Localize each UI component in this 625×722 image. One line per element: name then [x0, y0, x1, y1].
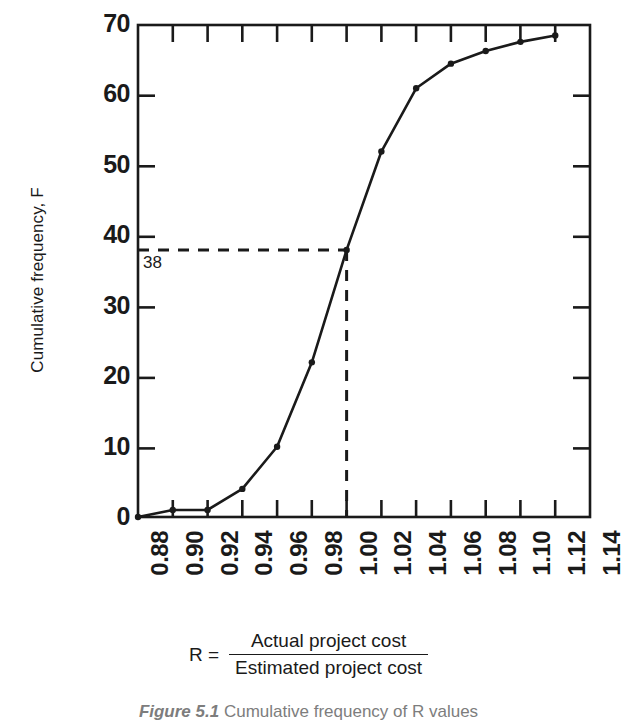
formula-denominator: Estimated project cost — [229, 654, 428, 679]
x-tick-label: 1.04 — [426, 531, 450, 621]
x-tick-label: 1.02 — [391, 531, 415, 621]
x-axis-formula: R = Actual project cost Estimated projec… — [0, 630, 617, 679]
x-tick-label: 1.12 — [565, 531, 589, 621]
x-tick-label: 0.96 — [287, 531, 311, 621]
x-tick-label: 0.90 — [183, 531, 207, 621]
x-tick-label: 0.92 — [218, 531, 242, 621]
x-tick-label: 1.08 — [496, 531, 520, 621]
x-tick-label: 1.06 — [461, 531, 485, 621]
x-tick-label: 1.14 — [600, 531, 624, 621]
figure-caption: Figure 5.1 Cumulative frequency of R val… — [0, 702, 617, 722]
x-tick-label: 1.00 — [357, 531, 381, 621]
figure-caption-label: Figure 5.1 — [139, 702, 219, 721]
x-tick-label: 0.98 — [322, 531, 346, 621]
formula-numerator: Actual project cost — [245, 630, 412, 654]
formula-fraction: Actual project cost Estimated project co… — [229, 630, 428, 679]
figure-caption-text: Cumulative frequency of R values — [224, 702, 478, 721]
x-tick-label: 0.88 — [148, 531, 172, 621]
x-tick-label: 1.10 — [530, 531, 554, 621]
formula-lhs: R = — [189, 644, 219, 666]
x-tick-label: 0.94 — [252, 531, 276, 621]
